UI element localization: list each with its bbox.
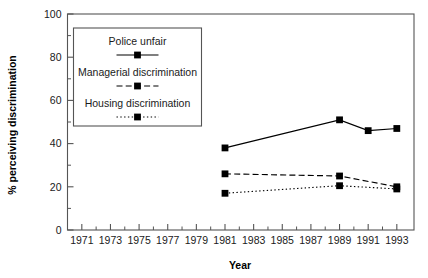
legend-marker — [134, 83, 141, 90]
data-point-marker — [336, 173, 343, 180]
y-tick-label: 100 — [44, 8, 62, 20]
x-tick-label: 1985 — [271, 234, 295, 246]
legend-marker — [134, 114, 141, 121]
y-axis-title: % perceiving discrimination — [6, 55, 18, 194]
legend-label: Housing discrimination — [85, 97, 191, 109]
x-tick-label: 1975 — [127, 234, 151, 246]
y-tick-label: 0 — [56, 224, 62, 236]
data-point-marker — [222, 170, 229, 177]
data-point-marker — [393, 186, 400, 193]
data-point-marker — [365, 127, 372, 134]
data-point-marker — [393, 125, 400, 132]
line-chart: 020406080100 197119731975197719791981198… — [0, 0, 428, 278]
x-tick-label: 1979 — [185, 234, 209, 246]
y-tick-label: 20 — [50, 181, 62, 193]
x-tick-label: 1983 — [242, 234, 266, 246]
x-tick-label: 1981 — [213, 234, 237, 246]
x-tick-label: 1991 — [357, 234, 381, 246]
legend-marker — [134, 52, 141, 59]
y-tick-label: 80 — [50, 51, 62, 63]
data-point-marker — [222, 145, 229, 152]
x-tick-label: 1977 — [156, 234, 180, 246]
x-tick-label: 1989 — [328, 234, 352, 246]
x-tick-label: 1971 — [70, 234, 94, 246]
y-tick-label: 40 — [50, 137, 62, 149]
x-tick-label: 1993 — [385, 234, 409, 246]
data-point-marker — [222, 190, 229, 197]
legend-label: Managerial discrimination — [78, 66, 197, 78]
legend-label: Police unfair — [109, 35, 167, 47]
x-tick-label: 1987 — [299, 234, 323, 246]
chart-legend: Police unfairManagerial discriminationHo… — [74, 28, 202, 126]
y-tick-label: 60 — [50, 94, 62, 106]
data-point-marker — [336, 116, 343, 123]
x-tick-label: 1973 — [99, 234, 123, 246]
x-axis-title: Year — [229, 259, 251, 271]
data-point-marker — [336, 182, 343, 189]
chart-figure: 020406080100 197119731975197719791981198… — [0, 0, 428, 278]
